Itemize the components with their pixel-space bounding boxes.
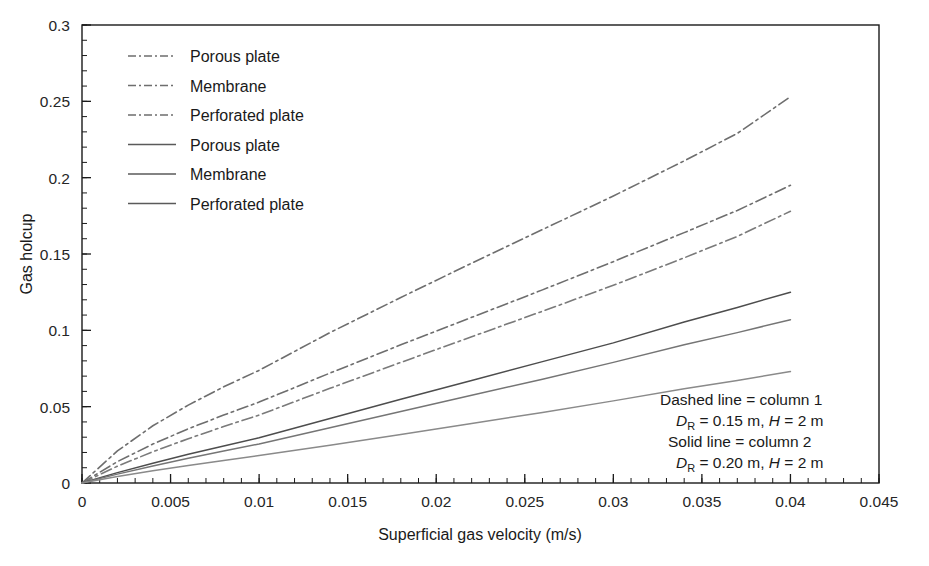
y-tick-label: 0 — [61, 475, 70, 492]
annotation-solid-note: Solid line = column 2 — [668, 433, 811, 450]
chart-annotations: Dashed line = column 1 DR = 0.15 m, H = … — [660, 391, 824, 474]
legend-label: Membrane — [190, 166, 267, 183]
h-value-dashed: = 2 m — [780, 412, 824, 429]
h-value-solid: = 2 m — [780, 454, 824, 471]
x-axis-title: Superficial gas velocity (m/s) — [378, 526, 582, 543]
x-tick-label: 0.025 — [505, 493, 544, 510]
x-tick-label: 0.02 — [421, 493, 451, 510]
h-symbol-dashed: H — [769, 412, 781, 429]
x-tick-label: 0.045 — [860, 493, 899, 510]
y-axis-title: Gas holcup — [18, 213, 35, 294]
x-tick-label: 0.04 — [775, 493, 806, 510]
y-tick-label: 0.2 — [48, 170, 70, 187]
solid-dims-eq: = 0.20 m, — [695, 454, 769, 471]
x-tick-label: 0.01 — [244, 493, 274, 510]
y-tick-label: 0.3 — [48, 17, 70, 34]
x-tick-label: 0.005 — [151, 493, 190, 510]
d-symbol-solid: D — [676, 454, 687, 471]
x-tick-label: 0.035 — [682, 493, 721, 510]
d-subscript-solid: R — [687, 462, 695, 474]
x-tick-label: 0.03 — [598, 493, 628, 510]
y-tick-label: 0.05 — [40, 399, 70, 416]
annotation-dashed-note: Dashed line = column 1 — [660, 391, 822, 408]
legend-label: Porous plate — [190, 137, 280, 154]
legend-label: Perforated plate — [190, 107, 304, 124]
y-tick-label: 0.15 — [40, 246, 70, 263]
legend-label: Perforated plate — [190, 196, 304, 213]
chart-figure: 00.0050.010.0150.020.0250.030.0350.040.0… — [0, 0, 929, 566]
d-symbol-dashed: D — [676, 412, 687, 429]
d-subscript-dashed: R — [687, 420, 695, 432]
gas-holdup-line-chart: 00.0050.010.0150.020.0250.030.0350.040.0… — [0, 0, 929, 566]
x-tick-label: 0.015 — [328, 493, 367, 510]
legend-label: Membrane — [190, 78, 267, 95]
legend-label: Porous plate — [190, 48, 280, 65]
h-symbol-solid: H — [769, 454, 781, 471]
y-tick-label: 0.1 — [48, 322, 70, 339]
x-tick-label: 0 — [78, 493, 87, 510]
dashed-dims-eq: = 0.15 m, — [695, 412, 769, 429]
y-tick-label: 0.25 — [40, 93, 70, 110]
